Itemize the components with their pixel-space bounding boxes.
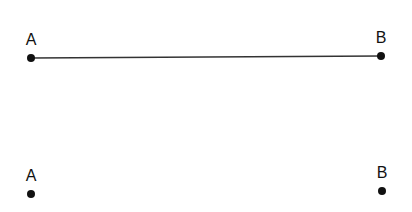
segment-ab: [31, 56, 381, 58]
segment-point-a: [27, 54, 35, 62]
segment-point-b: [377, 52, 385, 60]
point-label-a: A: [26, 167, 37, 184]
point-a: [27, 190, 35, 198]
diagram-canvas: A B A B: [0, 0, 412, 212]
point-label-b: B: [377, 164, 388, 181]
point-b: [378, 187, 386, 195]
segment-label-a: A: [26, 31, 37, 48]
segment-label-b: B: [376, 29, 387, 46]
